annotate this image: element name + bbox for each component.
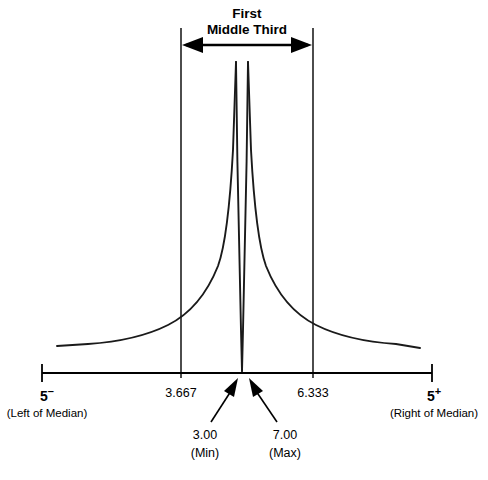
min-callout-caption: (Min) [191,446,219,460]
middle-third-span-arrow [182,37,312,53]
boundary-label-lower: 3.667 [165,386,196,400]
axis-endpoint-right: 5+ (Right of Median) [390,385,478,420]
max-callout-caption: (Max) [269,446,301,460]
middle-third-title: First Middle Third [207,6,287,37]
axis-endpoint-left-superscript: – [48,385,54,397]
axis-endpoint-right-superscript: + [435,385,441,397]
density-spike-left-inner [236,62,242,371]
boundary-label-upper: 6.333 [297,386,328,400]
middle-third-title-line2: Middle Third [207,22,287,38]
axis-endpoint-left: 5– (Left of Median) [7,385,88,420]
min-callout-label: 3.00 (Min) [191,428,219,461]
first-middle-third-figure: First Middle Third 3.667 6.333 5– (Left … [0,0,488,480]
axis-endpoint-right-value: 5 [427,388,435,404]
max-callout-label: 7.00 (Max) [269,428,301,461]
middle-third-title-line1: First [207,6,287,22]
density-curve-right [248,62,420,348]
min-callout-value: 3.00 [193,428,217,442]
axis-endpoint-right-caption: (Right of Median) [390,407,478,420]
max-callout-arrow [249,378,277,422]
density-curve-left [57,62,236,346]
density-spike-right-inner [242,62,248,371]
min-callout-arrow [211,378,238,422]
axis-endpoint-left-value: 5 [40,388,48,404]
axis-endpoint-left-caption: (Left of Median) [7,407,88,420]
max-callout-value: 7.00 [273,428,297,442]
